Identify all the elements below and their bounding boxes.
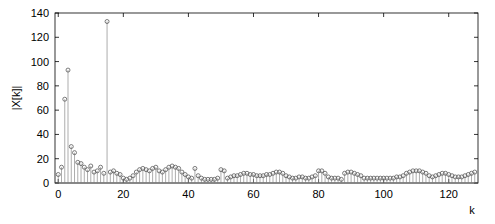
x-tick-label: 40 bbox=[182, 188, 194, 200]
y-tick-label: 40 bbox=[37, 128, 49, 140]
axes-frame bbox=[55, 13, 478, 183]
x-tick-label: 100 bbox=[374, 188, 392, 200]
y-tick-label: 20 bbox=[37, 153, 49, 165]
stem-plot: 020406080100120140 020406080100120 |X[k]… bbox=[0, 0, 495, 224]
stem-series bbox=[55, 20, 478, 184]
y-axis-tick-labels: 020406080100120140 bbox=[31, 7, 49, 189]
y-tick-label: 0 bbox=[43, 177, 49, 189]
y-tick-label: 140 bbox=[31, 7, 49, 19]
y-tick-label: 80 bbox=[37, 80, 49, 92]
x-tick-label: 20 bbox=[117, 188, 129, 200]
y-tick-label: 100 bbox=[31, 56, 49, 68]
x-tick-label: 60 bbox=[247, 188, 259, 200]
x-axis-label: k bbox=[469, 204, 475, 216]
x-tick-label: 80 bbox=[312, 188, 324, 200]
x-tick-label: 0 bbox=[55, 188, 61, 200]
y-axis-label: |X[k]| bbox=[10, 86, 22, 111]
figure-container: 020406080100120140 020406080100120 |X[k]… bbox=[0, 0, 495, 224]
y-tick-label: 60 bbox=[37, 104, 49, 116]
x-axis-tick-labels: 020406080100120 bbox=[55, 188, 458, 200]
tick-marks bbox=[55, 13, 478, 183]
y-tick-label: 120 bbox=[31, 31, 49, 43]
x-tick-label: 120 bbox=[440, 188, 458, 200]
